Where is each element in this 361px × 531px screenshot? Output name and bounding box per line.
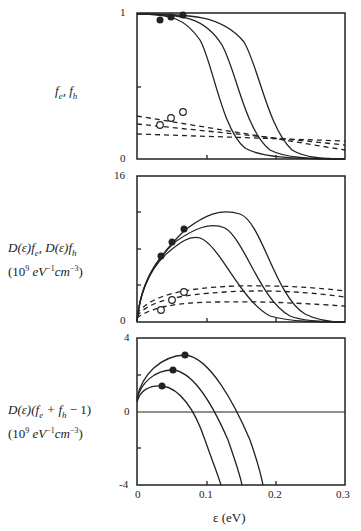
p3-y-label: D(ε)(fe + fh − 1) (109 eV−1cm−3) bbox=[8, 402, 91, 441]
p2-ytick-top: 16 bbox=[114, 169, 125, 181]
p1-y-label: fe, fh bbox=[55, 83, 77, 104]
xtick-0.2: 0.2 bbox=[268, 488, 282, 500]
panel-bottom bbox=[137, 338, 345, 485]
xtick-0: 0 bbox=[135, 488, 141, 500]
p1-ytick-top: 1 bbox=[120, 6, 126, 18]
open-markers bbox=[157, 109, 187, 129]
p3-ytick-bottom: -4 bbox=[119, 478, 128, 490]
panel-top bbox=[137, 12, 345, 160]
x-axis-label: ε (eV) bbox=[213, 510, 246, 525]
p2-ytick-bottom: 0 bbox=[120, 314, 126, 326]
panel-middle bbox=[137, 176, 345, 322]
p1-ytick-bottom: 0 bbox=[120, 152, 126, 164]
xtick-0.3: 0.3 bbox=[336, 488, 350, 500]
xtick-0.1: 0.1 bbox=[199, 488, 213, 500]
p3-ytick-top: 4 bbox=[124, 331, 130, 343]
p3-ytick-mid: 0 bbox=[124, 405, 130, 417]
p2-y-label: D(ε)fe, D(ε)fh (109 eV−1cm−3) bbox=[8, 240, 83, 279]
